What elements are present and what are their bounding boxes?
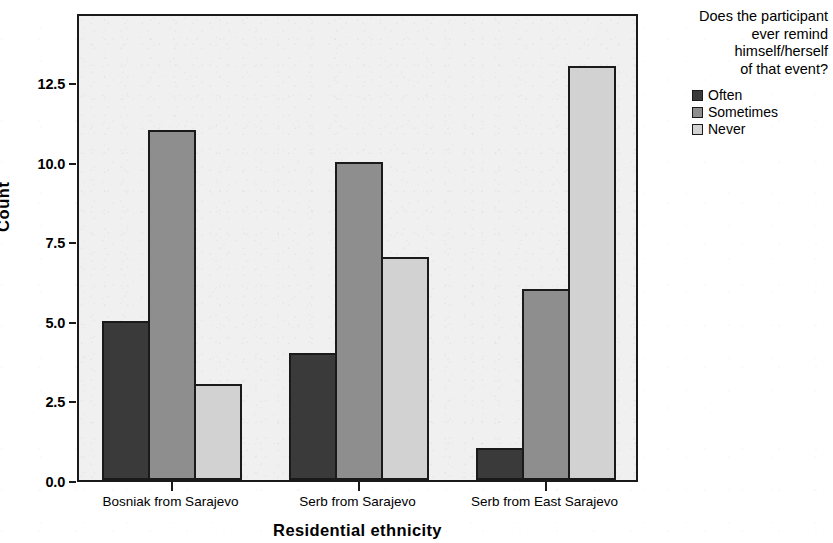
y-tick-label: 10.0 — [38, 157, 65, 172]
y-tick-mark — [69, 481, 76, 483]
bar-never-2 — [381, 257, 429, 480]
legend-label: Sometimes — [708, 105, 778, 119]
bar-sometimes-3 — [522, 289, 570, 480]
bar-often-3 — [476, 448, 524, 480]
y-tick-mark — [69, 83, 76, 85]
y-tick-mark — [69, 322, 76, 324]
y-tick-label: 2.5 — [45, 395, 65, 410]
bar-never-1 — [194, 384, 242, 480]
legend-item-never: Never — [692, 121, 828, 137]
legend-swatch-icon — [692, 107, 703, 118]
plot-area — [77, 14, 638, 482]
legend-items: OftenSometimesNever — [660, 87, 828, 137]
x-tick-label: Bosniak from Sarajevo — [103, 495, 239, 509]
y-tick-label: 5.0 — [45, 316, 65, 331]
y-tick-mark — [69, 401, 76, 403]
x-tick-label: Serb from East Sarajevo — [471, 495, 618, 509]
legend-label: Often — [708, 88, 742, 102]
legend-swatch-icon — [692, 90, 703, 101]
x-tick-mark — [358, 482, 360, 491]
x-tick-mark — [545, 482, 547, 491]
y-axis-title: Count — [0, 181, 13, 232]
x-tick-mark — [171, 482, 173, 491]
bar-never-3 — [568, 66, 616, 480]
legend-item-often: Often — [692, 87, 828, 103]
legend-title: Does the participant ever remind himself… — [660, 8, 828, 78]
y-tick-mark — [69, 242, 76, 244]
bar-sometimes-1 — [148, 130, 196, 480]
legend-swatch-icon — [692, 124, 703, 135]
legend-label: Never — [708, 122, 745, 136]
bar-often-1 — [102, 321, 150, 480]
bars-layer — [79, 16, 636, 480]
x-axis-title: Residential ethnicity — [77, 521, 638, 540]
legend: Does the participant ever remind himself… — [660, 8, 828, 138]
y-tick-label: 12.5 — [38, 77, 65, 92]
legend-item-sometimes: Sometimes — [692, 104, 828, 120]
bar-chart: 0.02.55.07.510.012.5 Count Bosniak from … — [0, 0, 833, 543]
bar-sometimes-2 — [335, 162, 383, 480]
y-tick-label: 0.0 — [45, 475, 65, 490]
x-tick-label: Serb from Sarajevo — [299, 495, 415, 509]
y-tick-mark — [69, 163, 76, 165]
bar-often-2 — [289, 353, 337, 480]
y-tick-label: 7.5 — [45, 236, 65, 251]
